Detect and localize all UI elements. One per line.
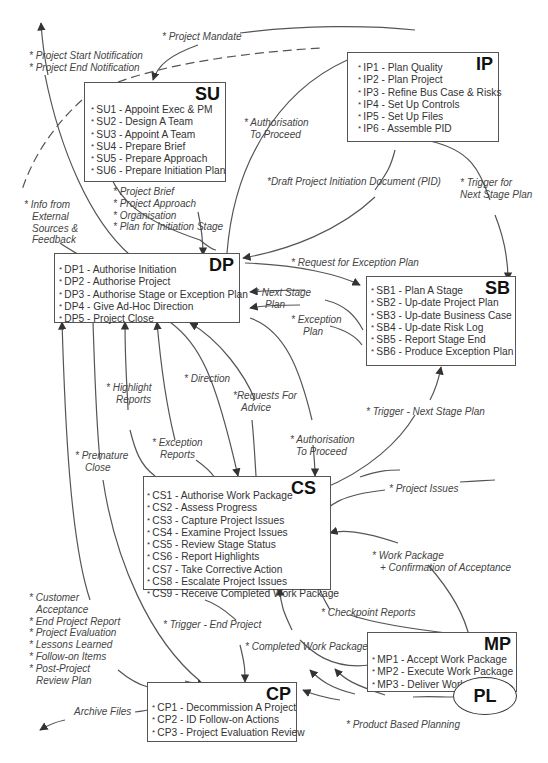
list-item: SB2 - Up-date Project Plan: [371, 297, 513, 309]
process-box-cs: CS CS1 - Authorise Work Package CS2 - As…: [143, 476, 331, 590]
flow-label-authorisation-mid: * Authorisation To Proceed: [290, 434, 355, 458]
list-item: IP5 - Set Up Files: [358, 111, 502, 123]
list-item: CP1 - Decommission A Project: [152, 702, 305, 714]
flow-label-highlight-reports: * Highlight Reports: [106, 382, 152, 406]
ip-activity-list: IP1 - Plan Quality IP2 - Plan Project IP…: [358, 62, 502, 136]
sb-activity-list: SB1 - Plan A Stage SB2 - Up-date Project…: [371, 285, 513, 359]
list-item: IP2 - Plan Project: [358, 74, 502, 86]
process-node-pl: PL: [453, 677, 517, 715]
list-item: CS9 - Receive Completed Work Package: [147, 588, 339, 600]
flow-label-completed-work-package: * Completed Work Package: [245, 641, 368, 653]
list-item: CS8 - Escalate Project Issues: [147, 576, 339, 588]
flow-label-trigger-end-project: * Trigger - End Project: [163, 619, 261, 631]
list-item: SU3 - Appoint A Team: [91, 129, 225, 141]
process-code-su: SU: [195, 84, 220, 105]
list-item: SU6 - Prepare Initiation Plan: [91, 165, 225, 177]
flow-label-draft-pid: *Draft Project Initiation Document (PID): [267, 176, 441, 188]
flow-label-next-stage-plan: * Next Stage Plan: [255, 287, 311, 311]
list-item: CS3 - Capture Project Issues: [147, 515, 339, 527]
list-item: CS4 - Examine Project Issues: [147, 527, 339, 539]
process-box-ip: IP IP1 - Plan Quality IP2 - Plan Project…: [347, 52, 499, 142]
su-activity-list: SU1 - Appoint Exec & PM SU2 - Design A T…: [91, 104, 225, 178]
list-item: MP1 - Accept Work Package: [372, 654, 513, 666]
flow-label-checkpoint-reports: * Checkpoint Reports: [321, 607, 416, 619]
list-item: DP3 - Authorise Stage or Exception Plan: [59, 289, 248, 301]
flow-label-trigger-next-stage-plan: * Trigger for Next Stage Plan: [460, 177, 532, 201]
flow-label-exception-reports: * Exception Reports: [152, 437, 203, 461]
flow-label-archive-files: Archive Files: [74, 706, 131, 718]
dp-activity-list: DP1 - Authorise Initiation DP2 - Authori…: [59, 264, 248, 325]
flow-label-project-issues: * Project Issues: [389, 483, 458, 495]
list-item: CS7 - Take Corrective Action: [147, 564, 339, 576]
list-item: IP4 - Set Up Controls: [358, 99, 502, 111]
flow-label-product-based-planning: * Product Based Planning: [346, 719, 460, 731]
flow-label-info-external: * Info from External Sources & Feedback: [24, 199, 78, 246]
list-item: DP4 - Give Ad-Hoc Direction: [59, 301, 248, 313]
flow-label-end-notification: * Project End Notification: [29, 62, 140, 74]
list-item: DP2 - Authorise Project: [59, 276, 248, 288]
list-item: SU1 - Appoint Exec & PM: [91, 104, 225, 116]
process-box-sb: SB SB1 - Plan A Stage SB2 - Up-date Proj…: [366, 276, 516, 366]
list-item: CP3 - Project Evaluation Review: [152, 727, 305, 739]
flow-label-authorisation-top: * Authorisation To Proceed: [244, 117, 309, 141]
flow-label-closure-outputs: * Customer Acceptance * End Project Repo…: [29, 592, 120, 686]
process-box-dp: DP DP1 - Authorise Initiation DP2 - Auth…: [54, 253, 240, 323]
list-item: CS5 - Review Stage Status: [147, 539, 339, 551]
list-item: CS1 - Authorise Work Package: [147, 490, 339, 502]
cs-activity-list: CS1 - Authorise Work Package CS2 - Asses…: [147, 490, 339, 601]
cp-activity-list: CP1 - Decommission A Project CP2 - ID Fo…: [152, 702, 305, 739]
flow-label-exception-plan: * Exception Plan: [291, 314, 342, 338]
flow-label-project-mandate: * Project Mandate: [162, 31, 242, 43]
list-item: SB6 - Produce Exception Plan: [371, 346, 513, 358]
list-item: SB3 - Up-date Business Case: [371, 310, 513, 322]
list-item: DP5 - Project Close: [59, 313, 248, 325]
list-item: SB1 - Plan A Stage: [371, 285, 513, 297]
list-item: CP2 - ID Follow-on Actions: [152, 714, 305, 726]
flow-label-requests-for-advice: *Requests For Advice: [233, 390, 297, 414]
list-item: IP1 - Plan Quality: [358, 62, 502, 74]
list-item: DP1 - Authorise Initiation: [59, 264, 248, 276]
list-item: SU5 - Prepare Approach: [91, 153, 225, 165]
list-item: IP6 - Assemble PID: [358, 123, 502, 135]
flow-label-premature-close: * Premature Close: [75, 450, 128, 474]
process-box-su: SU SU1 - Appoint Exec & PM SU2 - Design …: [84, 82, 226, 182]
flow-label-work-package: * Work Package + Confirmation of Accepta…: [372, 550, 511, 574]
process-code-mp: MP: [484, 634, 511, 655]
flow-label-project-brief: * Project Brief * Project Approach * Org…: [113, 186, 223, 233]
list-item: SU4 - Prepare Brief: [91, 141, 225, 153]
flow-label-request-exception-plan: * Request for Exception Plan: [291, 257, 419, 269]
process-box-cp: CP CP1 - Decommission A Project CP2 - ID…: [147, 682, 297, 742]
list-item: IP3 - Refine Bus Case & Risks: [358, 87, 502, 99]
list-item: CS6 - Report Highlights: [147, 551, 339, 563]
flow-label-start-notification: * Project Start Notification: [29, 50, 143, 62]
list-item: SB4 - Up-date Risk Log: [371, 322, 513, 334]
list-item: CS2 - Assess Progress: [147, 502, 339, 514]
flow-label-trigger-next-stage: * Trigger - Next Stage Plan: [366, 406, 485, 418]
list-item: SU2 - Design A Team: [91, 116, 225, 128]
list-item: SB5 - Report Stage End: [371, 334, 513, 346]
flow-label-direction: * Direction: [184, 373, 230, 385]
